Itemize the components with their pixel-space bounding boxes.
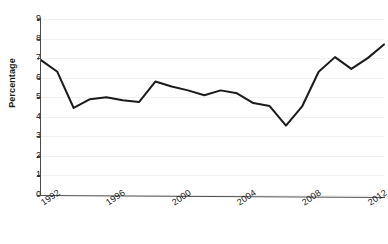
y-axis-ticks: 9876543210 <box>21 19 41 195</box>
data-series-line <box>41 19 384 195</box>
y-axis-title: Percentage <box>7 45 17 121</box>
y-axis-spine <box>40 18 41 196</box>
chart-title <box>0 0 388 2</box>
x-axis-labels: 199219962000200420082012 <box>41 199 384 244</box>
line-chart-figure: Percentage 9876543210 199219962000200420… <box>0 0 388 244</box>
series-polyline <box>41 44 384 125</box>
plot-area <box>41 19 384 195</box>
